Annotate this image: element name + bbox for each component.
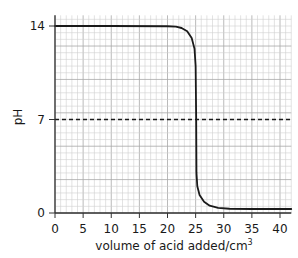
x-tick-label: 25	[188, 222, 203, 236]
x-tick-label: 15	[132, 222, 147, 236]
y-tick-label: 0	[37, 206, 45, 220]
x-tick-label: 35	[244, 222, 259, 236]
x-tick-label: 40	[272, 222, 287, 236]
titration-chart: 05101520253035400714 volume of acid adde…	[0, 0, 298, 258]
x-tick-label: 0	[51, 222, 59, 236]
x-tick-label: 10	[104, 222, 119, 236]
tick-labels: 05101520253035400714	[30, 19, 288, 236]
grid	[55, 15, 291, 213]
y-axis-label: pH	[11, 109, 25, 126]
y-tick-label: 7	[37, 113, 45, 127]
x-tick-label: 5	[79, 222, 87, 236]
x-tick-label: 30	[216, 222, 231, 236]
x-axis-label: volume of acid added/cm3	[95, 238, 252, 253]
y-tick-label: 14	[30, 19, 45, 33]
x-tick-label: 20	[160, 222, 175, 236]
